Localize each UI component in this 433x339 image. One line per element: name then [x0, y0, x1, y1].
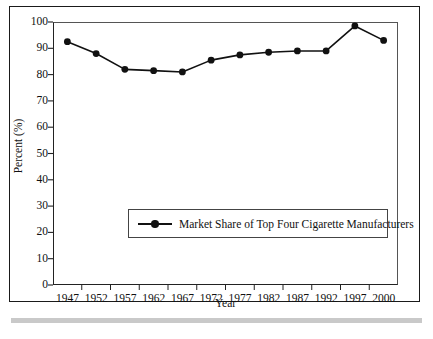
x-axis-tick-labels: 1947195219571962196719721977198219871992…: [0, 0, 433, 339]
figure-container: 0102030405060708090100 19471952195719621…: [0, 0, 433, 339]
footer-rule: [11, 318, 422, 323]
legend-label: Market Share of Top Four Cigarette Manuf…: [179, 218, 414, 230]
x-axis-title: Year: [53, 297, 398, 309]
y-axis-title: Percent (%): [12, 101, 24, 191]
legend-line-marker-icon: [138, 218, 172, 230]
legend: Market Share of Top Four Cigarette Manuf…: [128, 209, 388, 238]
